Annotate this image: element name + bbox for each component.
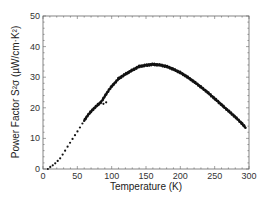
plot-area-border xyxy=(43,16,249,169)
x-tick-label: 200 xyxy=(173,171,188,181)
x-tick-label: 50 xyxy=(72,171,82,181)
data-point xyxy=(81,122,83,124)
data-curve xyxy=(84,64,245,128)
data-point xyxy=(52,164,54,166)
y-tick-label: 10 xyxy=(30,133,40,143)
x-tick-label: 100 xyxy=(104,171,119,181)
data-point xyxy=(74,134,76,136)
y-tick-label: 30 xyxy=(30,72,40,82)
plot-frame xyxy=(43,16,249,169)
data-point xyxy=(62,153,64,155)
data-point xyxy=(49,166,51,168)
data-point xyxy=(54,162,56,164)
data-point xyxy=(57,160,59,162)
data-point xyxy=(117,77,119,79)
x-axis-label: Temperature (K) xyxy=(110,181,182,192)
data-point xyxy=(64,150,66,152)
data-point xyxy=(66,146,68,148)
data-point xyxy=(59,157,61,159)
y-tick-label: 20 xyxy=(30,103,40,113)
x-tick-label: 150 xyxy=(138,171,153,181)
x-tick-label: 250 xyxy=(207,171,222,181)
data-point xyxy=(69,142,71,144)
data-point xyxy=(79,126,81,128)
data-point xyxy=(47,168,49,170)
data-point xyxy=(71,138,73,140)
y-tick-label: 40 xyxy=(30,42,40,52)
x-tick-label: 300 xyxy=(241,171,256,181)
x-axis-ticks: 050100150200250300 xyxy=(40,16,256,181)
x-tick-label: 0 xyxy=(40,171,45,181)
data-point xyxy=(102,103,104,105)
y-axis-label: Power Factor S²σ (µW/cm·K²) xyxy=(10,26,21,159)
data-point xyxy=(76,130,78,132)
data-series xyxy=(47,64,246,170)
power-factor-chart: 050100150200250300 01020304050 Temperatu… xyxy=(0,0,266,208)
y-tick-label: 50 xyxy=(30,11,40,21)
data-point xyxy=(105,101,107,103)
y-axis-ticks: 01020304050 xyxy=(30,11,249,174)
y-tick-label: 0 xyxy=(35,164,40,174)
